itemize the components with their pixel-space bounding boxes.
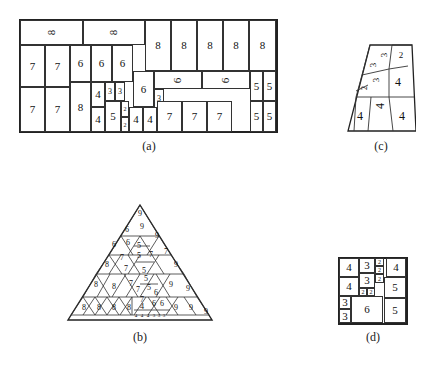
panel-b-label: 6 [154,288,158,297]
figure-root: 88888887766666655433377845224477755 (a) [0,0,432,369]
panel-a-cell: 6 [112,45,133,82]
panel-a-cell-label: 7 [30,104,36,115]
panel-d-cell-label: 4 [346,281,352,292]
panel-a-cell-label: 6 [141,84,147,95]
panel-c-svg: 323342444 [346,41,416,133]
panel-d-cell: 4 [339,277,359,296]
panel-b-label: 7 [124,264,128,273]
panel-a-cell-label: 8 [207,40,213,51]
panel-a-cell-label: 7 [217,111,223,122]
panel-a-cell-label: 3 [108,88,112,96]
panel-a-cell-label: 8 [109,30,120,36]
panel-a-cell-label: 4 [95,89,101,100]
panel-a-cell: 7 [45,45,70,87]
panel-b-label: 9 [174,260,178,269]
panel-b-label: 5 [147,283,151,292]
panel-b-label: 6 [152,299,156,308]
panel-c-label: 4 [399,109,405,123]
panel-a-cell: 5 [105,101,121,132]
panel-a-cell: 3 [105,82,115,101]
panel-b-label: 9 [169,280,173,289]
panel-b-label: 9 [204,307,208,316]
panel-d-square-packing: 432244322253365 [338,257,408,325]
panel-b-triangle-packing: 9699665577787955887756997668888499944433… [66,200,214,324]
panel-b-label: 8 [112,303,116,312]
panel-a-cell: 4 [129,107,143,132]
panel-a-cell: 7 [157,101,182,132]
panel-a-cell-label: 8 [78,102,84,113]
panel-a-rectangle-packing: 88888887766666655433377845224477755 [19,19,278,133]
panel-a-cell: 5 [263,101,276,132]
panel-a-cell: 2 [121,117,129,132]
caption-c: (c) [351,139,411,154]
panel-d-cell-label: 3 [364,275,370,286]
panel-a-cell-label: 5 [110,111,116,122]
panel-a-cell: 5 [250,101,263,132]
panel-a-cell-label: 2 [124,122,127,128]
panel-d-cell: 3 [339,309,351,323]
panel-d-cell: 2 [375,266,384,274]
panel-a-cell: 7 [207,101,232,132]
panel-a-cell: 5 [250,71,263,101]
panel-b-label: 4 [140,302,144,311]
panel-b-label: 6 [125,225,129,234]
panel-a-cell-label: 8 [233,40,239,51]
panel-d-cell-label: 5 [392,305,398,316]
panel-a-cell: 2 [121,101,129,117]
panel-a-cell: 8 [197,20,223,71]
panel-b-label: 9 [155,231,159,240]
panel-b-label: 5 [137,251,141,260]
panel-a-cell: 5 [263,71,276,101]
panel-d-cell: 5 [384,298,406,323]
panel-a-cell: 3 [115,82,125,101]
panel-a-cell-label: 6 [120,58,126,69]
panel-d-cell-label: 3 [342,311,348,322]
panel-d-cell-label: 4 [346,262,352,273]
panel-d-cell: 3 [359,273,375,288]
panel-d-cell: 4 [339,258,359,277]
panel-b-label: 8 [97,303,101,312]
panel-a-cell: 7 [182,101,207,132]
panel-a-cell: 8 [223,20,249,71]
panel-d-cell-label: 2 [362,289,365,295]
panel-a-cell-label: 2 [124,106,127,112]
panel-a-cell: 8 [20,20,83,45]
panel-a-cell-label: 6 [173,77,184,83]
panel-d-cell: 3 [339,296,351,309]
panel-b-label: 7 [136,285,140,294]
panel-b-label: 6 [126,238,130,247]
panel-a-cell: 4 [91,82,105,107]
panel-b-label: 9 [186,284,190,293]
panel-d-cell-label: 2 [370,289,373,295]
panel-a-cell-label: 6 [78,58,84,69]
panel-b-label: 5 [137,241,141,250]
panel-a-cell-label: 5 [267,111,273,122]
panel-d-cell-label: 2 [378,259,381,265]
panel-d-cell-label: 6 [364,304,370,315]
panel-c-label: 4 [357,109,363,123]
panel-b-label: 8 [105,260,109,269]
panel-c-label: 2 [360,86,369,90]
panel-a-cell-label: 3 [118,88,122,96]
panel-a-cell-label: 4 [95,114,101,125]
panel-a-cell-label: 7 [192,111,198,122]
panel-d-cell: 2 [367,288,375,296]
panel-a-cell-label: 5 [267,81,273,92]
panel-a-cell-label: 5 [254,111,260,122]
caption-b: (b) [110,330,170,345]
panel-d-cell: 2 [359,288,367,296]
panel-b-label: 7 [120,253,124,262]
panel-a-cell-label: 8 [260,40,266,51]
panel-a-cell: 6 [154,71,202,89]
panel-d-cell: 2 [375,258,384,266]
panel-a-cell: 8 [145,20,171,71]
panel-a-cell-label: 8 [181,40,187,51]
panel-c-label: 3 [379,52,389,57]
panel-c-label: 4 [395,75,401,89]
panel-d-cell: 3 [359,258,375,273]
panel-a-cell: 8 [83,20,145,45]
panel-a-cell-label: 7 [30,61,36,72]
panel-a-cell: 4 [143,107,157,132]
panel-a-cell-label: 6 [221,77,232,83]
panel-b-label: 8 [94,280,98,289]
